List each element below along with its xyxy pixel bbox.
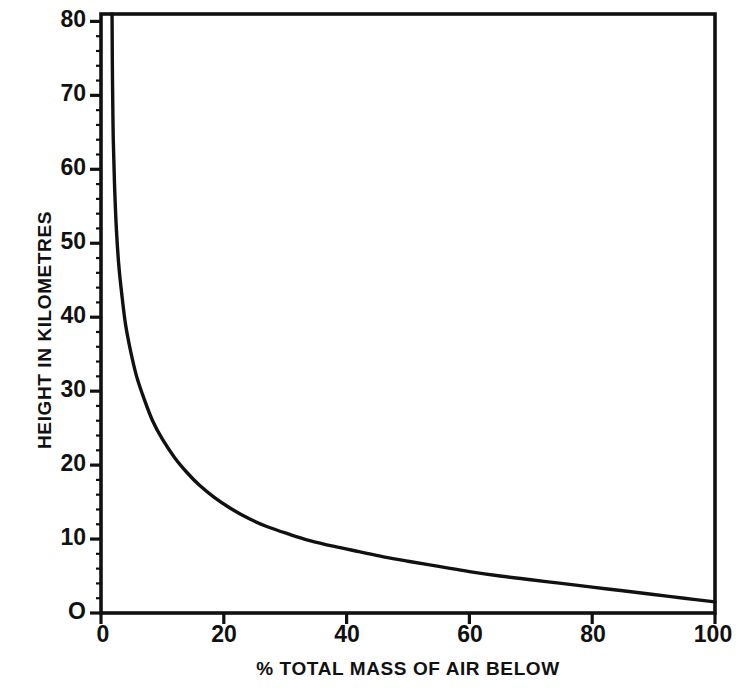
axis-ticks	[90, 21, 715, 624]
axis-frame	[101, 14, 715, 613]
data-series-line	[112, 14, 715, 602]
